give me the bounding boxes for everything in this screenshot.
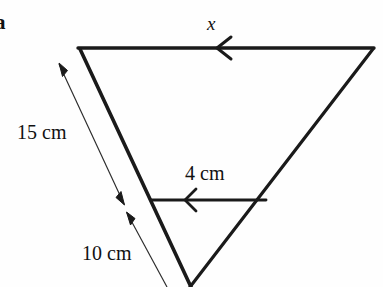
dimension-15cm-arrowhead-top-icon (59, 63, 68, 77)
part-letter-label: a (0, 12, 6, 33)
dimension-label-10cm: 10 cm (82, 243, 131, 263)
geometry-figure: a x 15 cm 4 cm 10 cm (0, 0, 383, 287)
unknown-side-label-x: x (207, 14, 215, 33)
dimension-label-4cm: 4 cm (185, 163, 224, 183)
inner-parallel-line-group (151, 189, 266, 211)
dimension-line-15cm (59, 63, 125, 205)
dimension-label-15cm: 15 cm (17, 122, 66, 142)
dimension-15cm-shaft (59, 64, 124, 204)
triangle-diagram-canvas (0, 0, 383, 287)
dimension-10cm-arrowhead-top-icon (127, 212, 136, 225)
dimension-15cm-arrowhead-bottom-icon (116, 192, 125, 206)
